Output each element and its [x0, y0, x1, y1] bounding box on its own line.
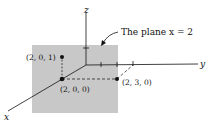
- plane-pointer-arrow: [103, 32, 118, 43]
- point-label-2-3-0: (2, 3, 0): [122, 78, 152, 87]
- z-axis-label: z: [83, 5, 89, 15]
- point-2-0-0: [60, 77, 65, 82]
- y-axis-label: y: [199, 59, 206, 69]
- point-2-0-1: [60, 55, 64, 59]
- point-2-3-0: [115, 77, 119, 81]
- point-label-2-0-1: (2, 0, 1): [26, 53, 56, 62]
- point-label-2-0-0: (2, 0, 0): [60, 85, 90, 94]
- dashed-diagonal: [117, 65, 133, 79]
- x-axis-label: x: [4, 112, 9, 122]
- plane-label: The plane x = 2: [121, 27, 193, 37]
- diagram-canvas: z y x The plane x = 2 (2, 0, 1) (2, 0, 0…: [0, 0, 209, 122]
